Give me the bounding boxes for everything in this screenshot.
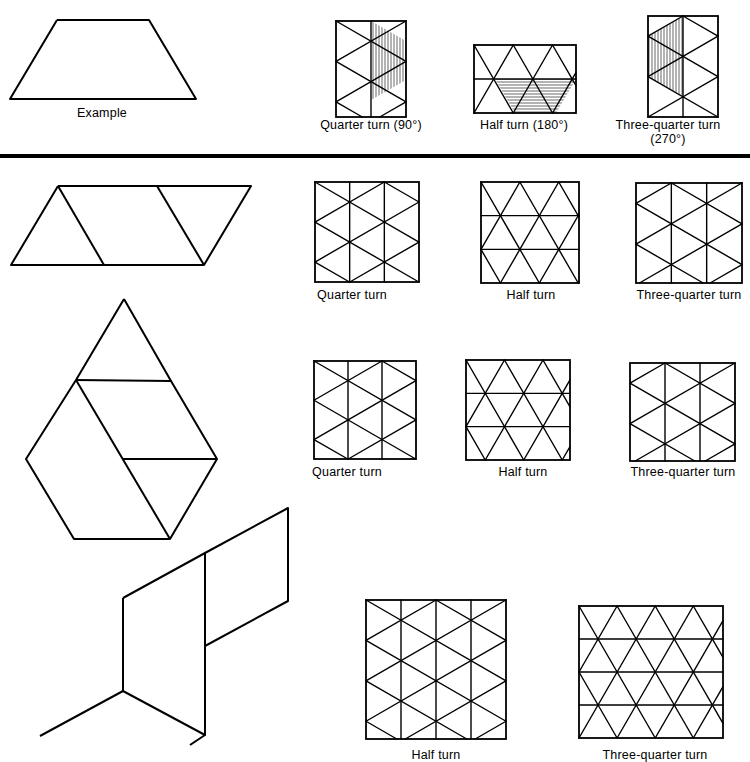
half-turn-label: Half turn	[411, 748, 460, 762]
example-label: Example	[77, 106, 127, 120]
grid-frame	[466, 360, 570, 460]
shape-edge	[190, 735, 205, 745]
parallelogram-of-triangles	[11, 186, 251, 265]
three-quarter-turn-label: Three-quarter turn(270°)	[615, 118, 720, 146]
exercise-row-2	[26, 299, 735, 539]
three-quarter-turn-label: Three-quarter turn	[602, 748, 707, 762]
shaded-trapezoid	[371, 21, 406, 100]
half-turn-label: Half turn (180°)	[480, 118, 568, 132]
shape-edge	[11, 186, 251, 265]
quarter-turn-label: Quarter turn (90°)	[320, 118, 422, 132]
shape-edge	[26, 299, 217, 539]
half-turn-label: Half turn	[498, 465, 547, 479]
quarter-turn-triangle-grid	[314, 361, 416, 459]
shaded-trapezoid	[648, 16, 683, 96]
quarter-turn-label: Quarter turn	[312, 465, 382, 479]
example-section	[10, 16, 718, 117]
hexagon-with-triangle	[26, 299, 217, 539]
three-quarter-turn-label: Three-quarter turn	[636, 288, 741, 302]
half-turn-triangle-grid	[366, 600, 506, 739]
shape-edge	[40, 691, 123, 736]
half-turn-triangle-grid	[481, 182, 579, 283]
exercise-row-1	[11, 182, 742, 283]
three-quarter-triangle-grid	[648, 16, 718, 117]
shape-edge	[58, 186, 104, 265]
half-turn-triangle-grid	[466, 360, 570, 460]
three-rhombus-zigzag	[40, 508, 288, 745]
quarter-triangle-grid	[336, 21, 406, 117]
three-quarter-turn-triangle-grid	[636, 183, 742, 283]
quarter-turn-triangle-grid	[315, 182, 419, 282]
shape-edge	[123, 553, 205, 735]
section-divider	[0, 154, 750, 158]
three-quarter-turn-label: Three-quarter turn	[630, 465, 735, 479]
quarter-turn-label: Quarter turn	[317, 288, 387, 302]
shape-edge	[157, 186, 204, 265]
shape-edge	[76, 380, 171, 381]
exercise-row-3	[40, 508, 723, 745]
example-trapezoid	[10, 20, 196, 99]
half-triangle-grid	[474, 45, 576, 113]
three-quarter-turn-triangle-grid	[630, 363, 735, 461]
half-turn-label: Half turn	[506, 288, 555, 302]
three-quarter-turn-triangle-grid	[579, 606, 723, 738]
exercise-rows	[11, 182, 742, 745]
